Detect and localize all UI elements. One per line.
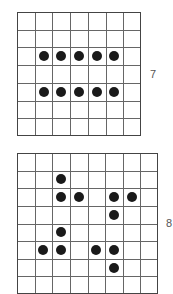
grid-dot: [38, 245, 48, 255]
dot-grid-8: [17, 153, 158, 294]
grid-dot: [56, 245, 66, 255]
grid-line: [18, 276, 157, 277]
grid-line: [18, 83, 140, 84]
grid-line: [18, 259, 157, 260]
grid-line: [18, 30, 140, 31]
dot-grid-7: [17, 12, 141, 136]
grid-dot: [109, 192, 119, 202]
grid-line: [18, 101, 140, 102]
grid-line: [70, 13, 71, 135]
grid-line: [18, 171, 157, 172]
grid-line: [18, 188, 157, 189]
grid-dot: [56, 87, 66, 97]
grid-dot: [92, 51, 102, 61]
grid-dot: [109, 51, 119, 61]
grid-line: [18, 241, 157, 242]
grid-line: [52, 13, 53, 135]
grid-line: [35, 13, 36, 135]
grid-line: [18, 47, 140, 48]
grid-dot: [56, 51, 66, 61]
grid-line: [88, 13, 89, 135]
grid-dot: [127, 192, 137, 202]
grid-dot: [92, 87, 102, 97]
grid-line: [18, 206, 157, 207]
grid-line: [106, 13, 107, 135]
grid-dot: [74, 87, 84, 97]
grid-dot: [39, 51, 49, 61]
figure-label-7: 7: [150, 68, 156, 80]
grid-dot: [74, 51, 84, 61]
grid-dot: [39, 87, 49, 97]
figure-label-8: 8: [166, 217, 172, 229]
grid-dot: [109, 210, 119, 220]
grid-dot: [56, 227, 66, 237]
grid-dot: [109, 87, 119, 97]
grid-dot: [109, 245, 119, 255]
grid-line: [18, 118, 140, 119]
grid-dot: [56, 192, 66, 202]
grid-line: [18, 224, 157, 225]
grid-dot: [91, 245, 101, 255]
grid-dot: [56, 174, 66, 184]
grid-line: [18, 65, 140, 66]
grid-dot: [109, 263, 119, 273]
grid-line: [123, 13, 124, 135]
grid-dot: [74, 192, 84, 202]
